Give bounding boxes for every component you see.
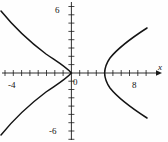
hyperbola-graph-figure: x 0 -4 8 6 -6 (0, 0, 168, 142)
y-tick-label-6: 6 (55, 5, 60, 15)
chart-canvas: x 0 -4 8 6 -6 (0, 0, 168, 142)
x-tick-label-neg4: -4 (8, 80, 16, 90)
y-tick-label-neg6: -6 (49, 126, 57, 136)
x-tick-label-8: 8 (132, 80, 137, 90)
origin-label: 0 (73, 77, 78, 87)
x-axis-group (2, 70, 162, 76)
x-axis-label: x (157, 62, 162, 72)
